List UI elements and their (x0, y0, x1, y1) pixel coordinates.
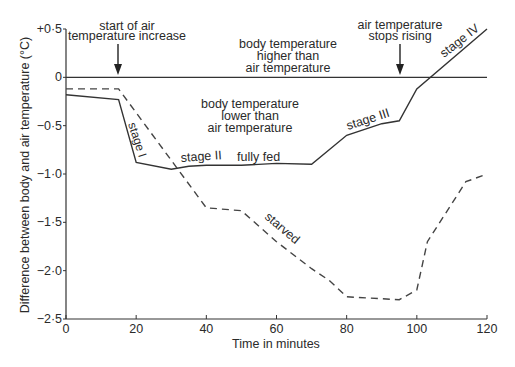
annotation-start-line2: temperature increase (68, 29, 186, 43)
region-above-line3: air temperature (246, 61, 331, 75)
y-tick-label: +0·5 (37, 22, 62, 36)
y-axis-label: Difference between body and air temperat… (18, 37, 32, 313)
y-tick-label: −0·5 (37, 119, 62, 133)
y-tick-label: −1·0 (37, 167, 62, 181)
x-tick-label: 120 (477, 322, 498, 336)
y-tick-label: 0 (55, 70, 62, 84)
x-tick-label: 80 (340, 322, 354, 336)
y-tick-label: −2·0 (37, 264, 62, 278)
x-tick-label: 100 (406, 322, 427, 336)
x-axis-label: Time in minutes (232, 337, 320, 351)
label-stage-2: stage II (180, 148, 222, 165)
label-stage-4: stage IV (437, 21, 482, 61)
chart: 020406080100120+0·50−0·5−1·0−1·5−2·0−2·5… (0, 0, 515, 367)
arrow-down-icon (396, 44, 404, 75)
annotation-stop-line2: stops rising (368, 29, 431, 43)
label-starved: starved (262, 210, 302, 247)
arrow-down-icon (114, 44, 122, 75)
x-tick-label: 20 (129, 322, 143, 336)
region-below-line3: air temperature (208, 121, 293, 135)
x-tick-label: 0 (63, 322, 70, 336)
label-fully-fed: fully fed (237, 150, 280, 164)
y-tick-label: −1·5 (37, 215, 62, 229)
y-tick-label: −2·5 (37, 312, 62, 326)
x-tick-label: 40 (199, 322, 213, 336)
x-tick-label: 60 (270, 322, 284, 336)
